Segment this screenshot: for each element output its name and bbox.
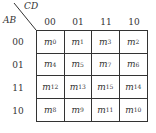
kmap-cell: m13 — [65, 76, 93, 99]
row-header-00: 00 — [6, 37, 30, 47]
kmap-cell: m2 — [120, 31, 148, 54]
kmap-cell: m9 — [65, 99, 93, 122]
kmap-cell: m3 — [92, 31, 120, 54]
column-variable-label: CD — [24, 1, 38, 11]
kmap-cell: m5 — [65, 54, 93, 77]
kmap-cell: m15 — [92, 76, 120, 99]
col-header-10: 10 — [120, 17, 148, 27]
col-header-01: 01 — [64, 17, 92, 27]
row-variable-label: AB — [3, 15, 16, 25]
kmap-cell: m7 — [92, 54, 120, 77]
kmap-cell: m14 — [120, 76, 148, 99]
row-header-10: 10 — [6, 106, 30, 116]
kmap-cell: m12 — [37, 76, 65, 99]
kmap-cell: m0 — [37, 31, 65, 54]
kmap-cell: m10 — [120, 99, 148, 122]
kmap-cell: m1 — [65, 31, 93, 54]
col-header-11: 11 — [92, 17, 120, 27]
row-header-01: 01 — [6, 60, 30, 70]
kmap-cell: m8 — [37, 99, 65, 122]
kmap-cell: m11 — [92, 99, 120, 122]
kmap-grid: m0 m1 m3 m2 m4 m5 m7 m6 m12 m13 m15 m14 … — [36, 30, 148, 122]
row-header-11: 11 — [6, 83, 30, 93]
kmap-cell: m6 — [120, 54, 148, 77]
col-header-00: 00 — [36, 17, 64, 27]
kmap-corner: CD AB — [0, 0, 37, 31]
kmap-cell: m4 — [37, 54, 65, 77]
